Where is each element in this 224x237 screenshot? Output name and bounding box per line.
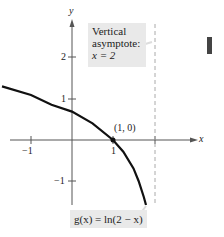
tick-label-x-neg1: −1 [22, 146, 33, 156]
x-axis-arrow-icon [190, 138, 198, 143]
margin-marker [207, 37, 212, 54]
tick-label-y-neg1: −1 [54, 176, 65, 186]
point-marker [111, 138, 116, 143]
tick-label-y-2: 2 [61, 52, 66, 62]
asymptote-line2: asymptote: [92, 37, 142, 49]
asymptote-line1: Vertical [92, 25, 142, 37]
point-label: (1, 0) [114, 123, 136, 133]
y-axis-label: y [69, 6, 73, 16]
asymptote-annotation: Vertical asymptote: x = 2 [88, 23, 146, 67]
asymptote-line3: x = 2 [92, 49, 142, 61]
x-axis-label: x [199, 134, 203, 144]
tick-label-x-1: 1 [111, 146, 116, 156]
tick-label-y-1: 1 [61, 94, 66, 104]
function-label: g(x) = ln(2 − x) [70, 210, 147, 228]
y-axis-arrow-icon [70, 19, 75, 27]
